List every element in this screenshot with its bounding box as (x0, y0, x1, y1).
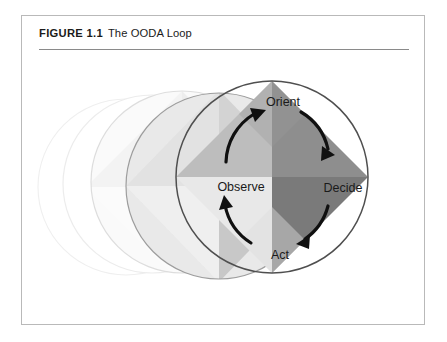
ooda-loop-diagram: Obs Obs (22, 16, 426, 326)
figure-frame: FIGURE 1.1The OODA Loop (21, 15, 425, 325)
label-act: Act (271, 248, 290, 262)
label-decide: Decide (324, 181, 363, 195)
label-orient: Orient (266, 95, 301, 109)
label-observe: Observe (217, 180, 264, 194)
